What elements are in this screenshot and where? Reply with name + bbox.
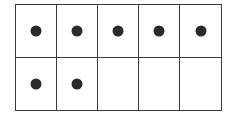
dot-icon xyxy=(72,78,83,89)
frame-cell xyxy=(180,5,221,58)
dot-icon xyxy=(113,25,124,36)
frame-cell xyxy=(98,5,139,58)
frame-cell xyxy=(16,58,57,111)
dot-icon xyxy=(195,25,206,36)
dot-icon xyxy=(154,25,165,36)
dot-icon xyxy=(31,25,42,36)
ten-frame xyxy=(15,4,222,111)
frame-cell xyxy=(139,58,180,111)
frame-cell xyxy=(180,58,221,111)
frame-cell xyxy=(16,5,57,58)
dot-icon xyxy=(31,78,42,89)
dot-icon xyxy=(72,25,83,36)
frame-cell xyxy=(139,5,180,58)
frame-cell xyxy=(98,58,139,111)
frame-cell xyxy=(57,5,98,58)
frame-cell xyxy=(57,58,98,111)
